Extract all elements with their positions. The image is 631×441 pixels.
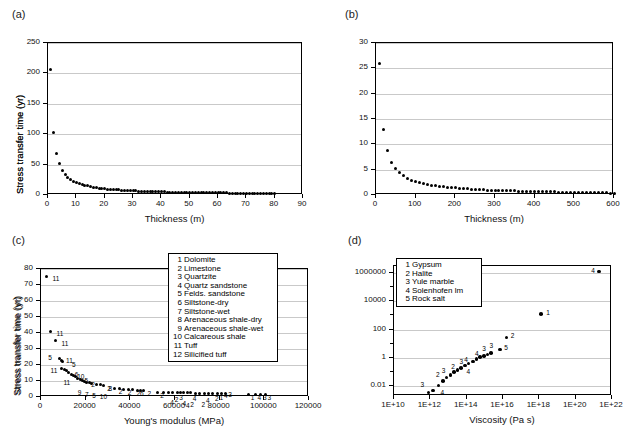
x-tick-label: 600 <box>587 199 631 208</box>
data-point <box>501 189 504 192</box>
y-tick-label: 5 <box>0 164 368 173</box>
x-tickmark <box>494 194 495 198</box>
y-tickmark <box>371 118 375 119</box>
figure-container: (a)(b)(c)(d)0501001502002500102030405060… <box>0 0 631 441</box>
y-tickmark <box>36 284 40 285</box>
x-tickmark <box>454 194 455 198</box>
data-point-label: 10 <box>100 393 107 400</box>
x-tickmark <box>575 395 576 399</box>
y-minor-tickmark <box>390 272 393 273</box>
panel-label-a: (a) <box>12 8 25 20</box>
x-tickmark <box>40 396 41 400</box>
data-point-label: 3 <box>442 367 446 374</box>
data-point <box>422 182 425 185</box>
data-point <box>549 190 552 193</box>
y-tick-label: 20 <box>0 88 368 97</box>
data-point <box>505 189 508 192</box>
x-tickmark <box>429 395 430 399</box>
data-point <box>386 149 389 152</box>
y-tick-label: 0 <box>0 189 368 198</box>
data-point <box>581 191 584 194</box>
gridline-y <box>376 43 612 44</box>
data-point-label: 3 <box>421 381 425 388</box>
data-point <box>462 187 465 190</box>
data-point <box>529 190 532 193</box>
x-tickmark <box>129 396 130 400</box>
x-tickmark <box>502 395 503 399</box>
data-point <box>198 392 201 395</box>
y-minor-tickmark <box>390 385 393 386</box>
data-point <box>454 186 457 189</box>
y-tickmark <box>371 67 375 68</box>
gridline-y <box>376 68 612 69</box>
x-tick-label: 120000 <box>282 401 334 410</box>
data-point <box>609 192 612 195</box>
data-point <box>442 185 445 188</box>
x-tick-label: 1E+22 <box>589 400 631 409</box>
y-axis-title-b: Stress transfer time (yr) <box>14 95 25 194</box>
data-point <box>474 188 477 191</box>
data-point <box>577 191 580 194</box>
gridline-y <box>376 170 612 171</box>
data-point <box>541 190 544 193</box>
y-tick-label: 10 <box>0 138 368 147</box>
y-tick-label: 70 <box>0 279 33 288</box>
data-point <box>505 336 509 340</box>
y-axis-title-d: Stress transfer time (yr) <box>12 296 23 395</box>
y-minor-tickmark <box>390 329 393 330</box>
data-point <box>438 185 441 188</box>
data-point <box>525 190 528 193</box>
legend-item-number: 5 <box>400 295 412 304</box>
data-point <box>482 188 485 191</box>
legend-item-label: Rock salt <box>412 295 445 304</box>
data-point <box>557 191 560 194</box>
panel-label-b: (b) <box>345 8 358 20</box>
data-point <box>589 191 592 194</box>
data-point <box>194 392 197 395</box>
data-point <box>441 379 445 383</box>
y-tick-label: 15 <box>0 113 368 122</box>
data-point <box>593 191 596 194</box>
data-point-label: 3 <box>228 391 232 398</box>
data-point <box>458 187 461 190</box>
data-point-label: 2 <box>147 390 151 397</box>
x-tickmark <box>538 395 539 399</box>
x-tickmark <box>573 194 574 198</box>
data-point <box>533 190 536 193</box>
data-point <box>486 189 489 192</box>
y-tickmark <box>371 169 375 170</box>
data-point <box>426 183 429 186</box>
gridline-y <box>41 365 307 366</box>
x-tickmark <box>308 396 309 400</box>
data-point <box>494 189 497 192</box>
data-point-label: 4 <box>441 389 445 396</box>
y-tick-label: 0.01 <box>0 380 386 389</box>
data-point-label: 5 <box>72 361 76 368</box>
data-point <box>553 190 556 193</box>
data-point <box>54 339 57 342</box>
plot-area-b <box>375 42 613 194</box>
y-tickmark <box>36 348 40 349</box>
y-tickmark <box>36 364 40 365</box>
data-point-label: 11 <box>62 340 69 347</box>
legend-panel-d: 1Gypsum2Halite3Yule marble4Solenhofen lm… <box>396 258 482 307</box>
data-point <box>162 391 165 394</box>
data-point-label: 11 <box>53 275 60 282</box>
y-tickmark <box>371 42 375 43</box>
data-point <box>378 62 381 65</box>
data-point-label: 2 <box>511 332 515 339</box>
x-tickmark <box>415 194 416 198</box>
y-tickmark <box>43 103 47 104</box>
y-minor-tickmark <box>390 371 393 372</box>
data-point <box>55 152 58 155</box>
y-tickmark <box>43 133 47 134</box>
x-tickmark <box>219 396 220 400</box>
data-point <box>224 392 227 395</box>
x-tickmark <box>174 396 175 400</box>
data-point-label: 5 <box>92 392 96 399</box>
data-point <box>390 161 393 164</box>
data-point <box>449 373 453 377</box>
gridline-y <box>394 386 610 387</box>
y-tickmark <box>371 93 375 94</box>
data-point <box>431 389 435 393</box>
